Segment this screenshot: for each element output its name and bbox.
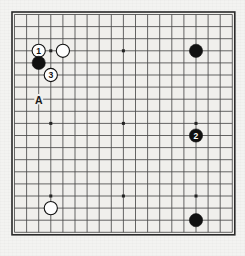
star-point: [122, 122, 125, 125]
stone-white-lower-left[interactable]: [44, 202, 57, 215]
star-point: [195, 122, 198, 125]
white-stone: [44, 202, 57, 215]
point-label-a: A: [35, 94, 43, 106]
black-stone: [32, 56, 45, 69]
stone-move-number: 1: [36, 46, 41, 56]
star-point: [122, 195, 125, 198]
stone-black-upper-right[interactable]: [189, 44, 202, 57]
star-point: [195, 195, 198, 198]
star-point: [49, 49, 52, 52]
stone-move-1[interactable]: 1: [32, 44, 45, 57]
point-labels: A: [34, 94, 43, 106]
black-stone: [189, 44, 202, 57]
stone-move-number: 2: [194, 131, 199, 141]
stone-move-2[interactable]: 2: [189, 129, 202, 142]
stone-black-lower-right[interactable]: [189, 214, 202, 227]
stone-move-3[interactable]: 3: [44, 68, 57, 81]
go-diagram-root: A132: [0, 0, 245, 256]
stone-black-upper-left[interactable]: [32, 56, 45, 69]
star-point: [122, 49, 125, 52]
go-board-svg: A132: [0, 0, 245, 256]
white-stone: [56, 44, 69, 57]
black-stone: [189, 214, 202, 227]
star-point: [49, 195, 52, 198]
stone-white-corner-top[interactable]: [56, 44, 69, 57]
star-point: [49, 122, 52, 125]
stone-move-number: 3: [48, 70, 53, 80]
go-board: A132: [0, 0, 245, 256]
